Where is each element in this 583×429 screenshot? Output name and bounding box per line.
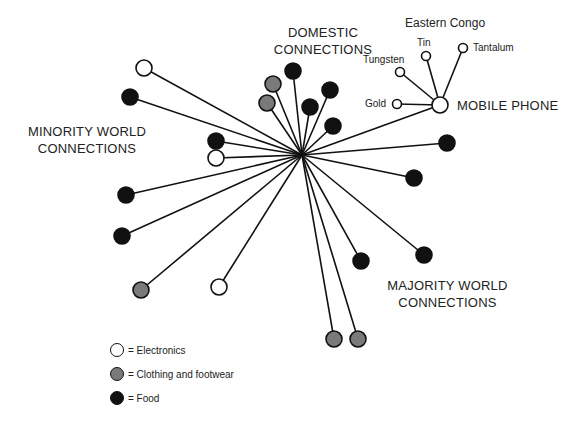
mineral-node (459, 44, 468, 53)
gold-label: Gold (365, 98, 386, 109)
majority-line1: MAJORITY WORLD (380, 277, 515, 294)
legend-label: = Food (128, 393, 159, 404)
food-node (208, 133, 224, 149)
legend-electronics: = Electronics (110, 343, 186, 357)
majority-label: MAJORITY WORLD CONNECTIONS (380, 277, 515, 311)
food-node (285, 63, 301, 79)
mineral-node (422, 52, 431, 61)
food-node (353, 253, 369, 269)
electronics-swatch-icon (110, 343, 124, 357)
clothing-node (350, 331, 366, 347)
electronics-node (136, 60, 152, 76)
legend-label: = Clothing and footwear (128, 369, 234, 380)
domestic-label: DOMESTIC CONNECTIONS (268, 24, 378, 58)
domestic-line2: CONNECTIONS (268, 41, 378, 58)
network-diagram (0, 0, 583, 429)
mineral-node (393, 100, 402, 109)
electronics-node (432, 97, 448, 113)
electronics-node (208, 150, 224, 166)
minority-line1: MINORITY WORLD (22, 123, 152, 140)
clothing-swatch-icon (110, 367, 124, 381)
food-node (322, 82, 338, 98)
food-node (118, 187, 134, 203)
clothing-node (133, 282, 149, 298)
mobile-phone-label: MOBILE PHONE (457, 97, 558, 114)
food-node (122, 89, 138, 105)
eastern-congo-label: Eastern Congo (405, 16, 485, 30)
legend-food: = Food (110, 391, 159, 405)
tin-label: Tin (417, 37, 431, 48)
food-node (406, 170, 422, 186)
food-swatch-icon (110, 391, 124, 405)
food-node (439, 135, 455, 151)
clothing-node (259, 95, 275, 111)
minority-label: MINORITY WORLD CONNECTIONS (22, 123, 152, 157)
food-node (416, 247, 432, 263)
mineral-node (396, 68, 405, 77)
electronics-node (211, 279, 227, 295)
food-node (302, 99, 318, 115)
food-node (114, 228, 130, 244)
majority-line2: CONNECTIONS (380, 294, 515, 311)
tungsten-label: Tungsten (363, 54, 404, 65)
minority-line2: CONNECTIONS (22, 140, 152, 157)
tantalum-label: Tantalum (473, 42, 514, 53)
food-node (325, 118, 341, 134)
clothing-node (265, 76, 281, 92)
legend-clothing: = Clothing and footwear (110, 367, 234, 381)
legend-label: = Electronics (128, 345, 186, 356)
domestic-line1: DOMESTIC (268, 24, 378, 41)
clothing-node (326, 331, 342, 347)
